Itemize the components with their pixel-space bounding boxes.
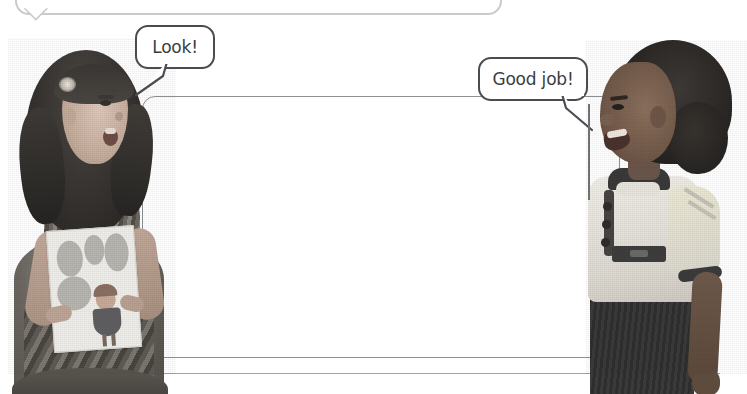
figure-boy <box>586 40 747 374</box>
speech-bubble-good-job-tail-icon <box>548 92 598 140</box>
child-drawing <box>46 225 142 353</box>
top-partial-speech-bubble <box>15 0 502 15</box>
speech-bubble-look-tail-icon <box>133 60 179 102</box>
top-partial-bubble-tail-icon <box>20 8 58 22</box>
speech-bubble-good-job-text: Good job! <box>492 69 573 89</box>
speech-bubble-look-text: Look! <box>152 37 198 57</box>
speech-bubble-good-job-stem <box>588 104 590 200</box>
worksheet-page: Look! Good job! <box>0 0 747 394</box>
